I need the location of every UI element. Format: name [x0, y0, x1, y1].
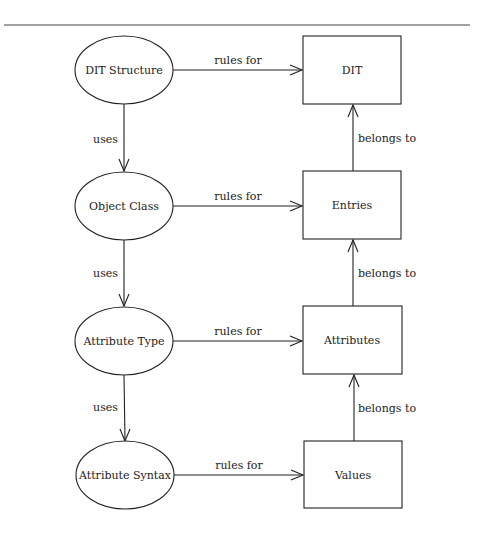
edge-label: rules for	[215, 459, 263, 472]
edge-belongs-to-3: belongs to	[349, 375, 416, 441]
edge-label: rules for	[214, 325, 262, 338]
edge-belongs-to-2: belongs to	[348, 240, 416, 306]
node-attribute-syntax: Attribute Syntax	[76, 441, 174, 509]
node-dit: DIT	[303, 36, 401, 104]
edge-label: uses	[93, 133, 118, 146]
node-label: Values	[334, 469, 372, 482]
edge-rules-for-1: rules for	[173, 54, 302, 75]
ldap-schema-diagram: DIT Structure DIT rules for uses belongs…	[0, 0, 490, 539]
edge-uses-2: uses	[93, 240, 129, 306]
node-label: Object Class	[89, 200, 159, 213]
edge-label: rules for	[214, 190, 262, 203]
node-label: Attribute Type	[82, 335, 164, 348]
edge-rules-for-3: rules for	[173, 325, 302, 346]
node-attribute-type: Attribute Type	[75, 307, 173, 375]
edge-uses-3: uses	[93, 375, 130, 441]
node-values: Values	[304, 441, 402, 508]
edge-label: belongs to	[358, 267, 416, 280]
edge-label: rules for	[214, 54, 262, 67]
edge-uses-1: uses	[93, 104, 129, 171]
node-label: Attribute Syntax	[78, 469, 172, 482]
edge-rules-for-4: rules for	[174, 459, 303, 480]
node-label: Attributes	[323, 334, 380, 347]
node-label: DIT	[342, 64, 363, 77]
node-entries: Entries	[303, 171, 401, 239]
edge-label: belongs to	[358, 132, 416, 145]
edge-label: uses	[93, 267, 118, 280]
edge-rules-for-2: rules for	[173, 190, 302, 211]
node-object-class: Object Class	[75, 172, 173, 240]
node-dit-structure: DIT Structure	[75, 36, 173, 104]
node-label: Entries	[332, 199, 373, 212]
edge-belongs-to-1: belongs to	[348, 105, 416, 171]
node-label: DIT Structure	[85, 64, 163, 77]
edge-label: uses	[93, 401, 118, 414]
edge-label: belongs to	[358, 402, 416, 415]
node-attributes: Attributes	[303, 306, 402, 374]
